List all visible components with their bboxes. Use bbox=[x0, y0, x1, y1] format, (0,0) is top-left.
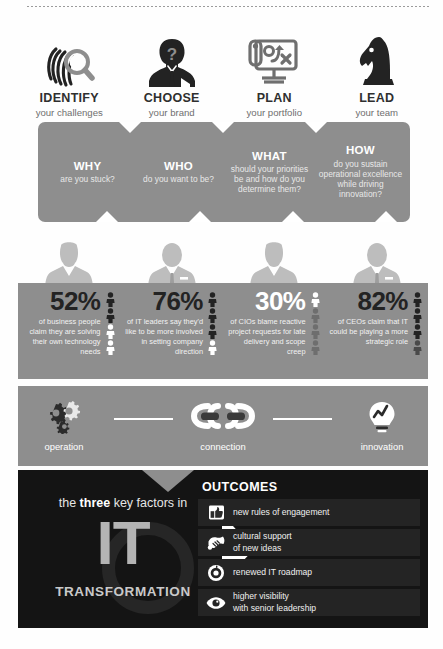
stat-description: of IT leaders say they'd like to be more… bbox=[125, 317, 204, 357]
lead-in-prefix: the bbox=[59, 496, 80, 510]
step-lead[interactable]: LEAD your team bbox=[326, 26, 429, 118]
outcomes-title: OUTCOMES bbox=[202, 480, 420, 494]
outcome-item[interactable]: new rules of engagement bbox=[198, 499, 420, 526]
fingerprint-magnifier-icon bbox=[42, 33, 96, 89]
process-label: operation bbox=[44, 441, 83, 452]
step-subtitle: your challenges bbox=[36, 107, 103, 119]
step-subtitle: your portfolio bbox=[247, 107, 302, 119]
stat-percent: 82% bbox=[330, 289, 409, 314]
process-band: operation connect bbox=[18, 386, 428, 466]
dotted-divider-top bbox=[26, 5, 430, 8]
question-body: do you want to be? bbox=[143, 174, 214, 184]
stat-82: 82% of CEOs claim that IT could be playi… bbox=[326, 283, 429, 379]
stat-figure-meter bbox=[411, 289, 424, 379]
stat-30: 30% of CIOs blame reactive project reque… bbox=[223, 283, 326, 379]
step-title: IDENTIFY bbox=[40, 92, 99, 105]
stat-figure-meter bbox=[309, 289, 322, 379]
thumbs-up-box-icon bbox=[203, 504, 229, 521]
stat-text: 76% of IT leaders say they'd like to be … bbox=[125, 289, 207, 379]
process-label: innovation bbox=[361, 441, 404, 452]
step-subtitle: your team bbox=[355, 107, 398, 119]
step-identify[interactable]: IDENTIFY your challenges bbox=[18, 26, 121, 118]
outcome-item[interactable]: renewed IT roadmap bbox=[198, 559, 420, 586]
stat-percent: 52% bbox=[22, 289, 101, 314]
outcome-item[interactable]: higher visibility with senior leadership bbox=[198, 589, 420, 616]
question-head: WHY bbox=[74, 160, 102, 173]
stat-description: of business people claim they are solvin… bbox=[22, 317, 101, 357]
stat-percent: 30% bbox=[227, 289, 306, 314]
stat-76: 76% of IT leaders say they'd like to be … bbox=[121, 283, 224, 379]
stat-figure-meter bbox=[104, 289, 117, 379]
strategy-board-icon bbox=[246, 33, 302, 89]
process-operation: operation bbox=[18, 400, 110, 452]
question-head: WHAT bbox=[252, 150, 287, 163]
question-head: HOW bbox=[346, 144, 375, 157]
step-choose[interactable]: ? CHOOSE your brand bbox=[121, 26, 224, 118]
process-connection: connection bbox=[177, 400, 269, 452]
stat-description: of CIOs blame reactive project requests … bbox=[227, 317, 306, 357]
transformation-band: the three key factors in IT TRANSFORMATI… bbox=[18, 470, 428, 628]
stat-description: of CEOs claim that IT could be playing a… bbox=[330, 317, 409, 347]
businessman-question-icon: ? bbox=[145, 33, 199, 89]
question-body: are you stuck? bbox=[60, 174, 114, 184]
outcome-text: renewed IT roadmap bbox=[229, 567, 312, 578]
eye-icon bbox=[203, 596, 229, 610]
stat-52: 52% of business people claim they are so… bbox=[18, 283, 121, 379]
gears-icon bbox=[44, 400, 84, 438]
question-who: WHO do you want to be? bbox=[133, 122, 224, 222]
svg-text:?: ? bbox=[167, 45, 177, 64]
outcome-text: new rules of engagement bbox=[229, 507, 330, 518]
process-inner: operation connect bbox=[18, 386, 428, 466]
questions-columns: WHY are you stuck? WHO do you want to be… bbox=[38, 122, 410, 222]
chain-link-icon bbox=[188, 400, 258, 438]
target-radar-icon bbox=[203, 564, 229, 582]
process-label: connection bbox=[200, 441, 245, 452]
outcomes-panel: OUTCOMES new rules of engagement bbox=[198, 478, 420, 620]
stats-columns: 52% of business people claim they are so… bbox=[18, 283, 428, 379]
steps-row: IDENTIFY your challenges ? CHOOSE your b… bbox=[18, 26, 428, 118]
process-innovation: innovation bbox=[336, 400, 428, 452]
question-body: should your priorities be and how do you… bbox=[227, 164, 312, 195]
outcome-item[interactable]: cultural support of new ideas bbox=[198, 529, 420, 556]
stat-text: 30% of CIOs blame reactive project reque… bbox=[227, 289, 309, 379]
transformation-word: TRANSFORMATION bbox=[18, 584, 228, 599]
outcome-text: higher visibility with senior leadership bbox=[229, 591, 316, 613]
process-connector-1 bbox=[114, 418, 173, 421]
chess-knight-icon bbox=[354, 33, 400, 89]
stat-text: 52% of business people claim they are so… bbox=[22, 289, 104, 379]
stats-band: 52% of business people claim they are so… bbox=[18, 283, 428, 379]
step-title: PLAN bbox=[257, 92, 292, 105]
lightbulb-growth-icon bbox=[365, 400, 399, 438]
question-how: HOW do you sustain operational excellenc… bbox=[315, 122, 406, 222]
question-why: WHY are you stuck? bbox=[42, 122, 133, 222]
it-word: IT bbox=[18, 514, 228, 571]
step-plan[interactable]: PLAN your portfolio bbox=[223, 26, 326, 118]
process-connector-2 bbox=[273, 418, 332, 421]
question-body: do you sustain operational excellence wh… bbox=[318, 159, 403, 200]
questions-band: WHY are you stuck? WHO do you want to be… bbox=[38, 122, 410, 222]
infographic-page: IDENTIFY your challenges ? CHOOSE your b… bbox=[0, 0, 443, 649]
stat-figure-meter bbox=[206, 289, 219, 379]
step-title: CHOOSE bbox=[144, 92, 200, 105]
question-head: WHO bbox=[164, 160, 193, 173]
step-title: LEAD bbox=[359, 92, 394, 105]
outcome-text: cultural support of new ideas bbox=[229, 531, 292, 553]
stat-text: 82% of CEOs claim that IT could be playi… bbox=[330, 289, 412, 379]
stat-percent: 76% bbox=[125, 289, 204, 314]
step-subtitle: your brand bbox=[149, 107, 195, 119]
question-what: WHAT should your priorities be and how d… bbox=[224, 122, 315, 222]
handshake-icon bbox=[203, 534, 229, 551]
